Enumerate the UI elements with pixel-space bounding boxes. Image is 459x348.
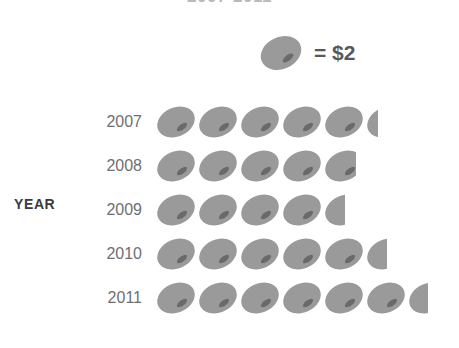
page-title: 2007-2011 <box>0 0 459 7</box>
coin-icon <box>197 146 239 186</box>
y-axis-label: YEAR <box>14 196 55 212</box>
coin-icon-partial <box>365 234 387 274</box>
row-label-2010: 2010 <box>98 246 142 262</box>
coin-icon <box>365 278 407 318</box>
row-label-2011: 2011 <box>98 290 142 306</box>
row-icons <box>155 100 378 144</box>
coin-icon-partial <box>323 190 345 230</box>
row-icons <box>155 276 428 320</box>
coin-icon <box>323 234 365 274</box>
coin-icon <box>239 190 281 230</box>
coin-icon <box>155 102 197 142</box>
coin-icon <box>197 190 239 230</box>
coin-icon <box>281 190 323 230</box>
pictograph-chart: 2007-2011 = $2 YEAR 20072008200920102011 <box>0 0 459 348</box>
row-icons <box>155 232 387 276</box>
coin-icon-partial <box>407 278 428 318</box>
chart-key: = $2 <box>258 31 355 75</box>
coin-icon <box>323 102 365 142</box>
coin-icon <box>155 278 197 318</box>
coin-icon <box>239 234 281 274</box>
coin-icon-partial <box>323 146 356 186</box>
coin-icon <box>281 102 323 142</box>
coin-icon <box>281 234 323 274</box>
coin-icon <box>323 278 365 318</box>
coin-icon-partial <box>365 102 378 142</box>
row-label-2009: 2009 <box>98 202 142 218</box>
row-icons <box>155 144 356 188</box>
coin-icon <box>197 234 239 274</box>
coin-icon <box>155 190 197 230</box>
coin-icon <box>239 278 281 318</box>
coin-icon <box>239 146 281 186</box>
row-icons <box>155 188 345 232</box>
coin-icon <box>197 102 239 142</box>
coin-icon <box>258 31 304 75</box>
coin-icon <box>155 146 197 186</box>
row-label-2008: 2008 <box>98 158 142 174</box>
row-label-2007: 2007 <box>98 114 142 130</box>
coin-icon <box>155 234 197 274</box>
coin-icon <box>281 278 323 318</box>
coin-icon <box>197 278 239 318</box>
coin-icon <box>281 146 323 186</box>
key-label: = $2 <box>314 41 355 65</box>
coin-icon <box>239 102 281 142</box>
